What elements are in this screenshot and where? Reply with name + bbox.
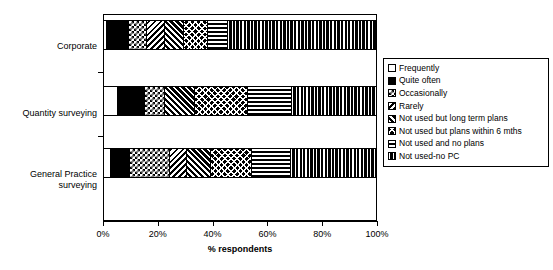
x-axis-tick <box>103 221 104 226</box>
bar-segment <box>184 20 209 50</box>
legend-item-label: Rarely <box>399 102 424 111</box>
bar-segment <box>211 148 252 178</box>
x-axis-tick-label: 0% <box>83 229 123 239</box>
bar-quantity-surveying <box>103 86 377 116</box>
bar-segment <box>147 20 165 50</box>
x-axis-tick <box>322 221 323 226</box>
swatch-chevron-icon <box>388 115 396 123</box>
bar-segment <box>129 20 147 50</box>
bar-segment <box>291 148 377 178</box>
legend-item[interactable]: Frequently <box>388 62 544 75</box>
bar-segment <box>165 86 195 116</box>
legend-item-label: Not used-no PC <box>399 152 459 161</box>
bar-segment <box>165 20 184 50</box>
x-axis-tick <box>267 221 268 226</box>
bar-segment <box>111 148 130 178</box>
category-label-general-practice-surveying: General Practicesurveying <box>0 169 97 191</box>
swatch-cross-hatch-icon <box>388 127 396 135</box>
legend-item[interactable]: Not used-no PC <box>388 150 544 163</box>
x-axis-line <box>103 221 377 222</box>
x-axis-tick-label: 80% <box>302 229 342 239</box>
bar-segment <box>130 148 170 178</box>
bar-segment <box>170 148 186 178</box>
bar-segment <box>208 20 227 50</box>
bar-segment <box>195 86 248 116</box>
stacked-bar-chart: Corporate Quantity surveying General Pra… <box>0 0 553 270</box>
category-label-quantity-surveying: Quantity surveying <box>0 108 97 119</box>
swatch-diagonal-stripes-icon <box>388 102 396 110</box>
bar-segment <box>118 86 145 116</box>
legend-item-label: Not used but long term plans <box>399 114 508 123</box>
swatch-checkerboard-icon <box>388 89 396 97</box>
legend-item[interactable]: Not used and no plans <box>388 138 544 151</box>
bar-segment <box>228 20 377 50</box>
x-axis-tick <box>213 221 214 226</box>
x-axis-tick-label: 20% <box>138 229 178 239</box>
x-axis-tick-label: 60% <box>247 229 287 239</box>
swatch-solid-black-icon <box>388 77 396 85</box>
legend-item[interactable]: Not used but long term plans <box>388 112 544 125</box>
legend-item[interactable]: Quite often <box>388 75 544 88</box>
x-axis-tick-label: 40% <box>193 229 233 239</box>
legend-item[interactable]: Rarely <box>388 100 544 113</box>
y-axis-tick <box>98 136 103 137</box>
legend-item-label: Not used but plans within 6 mths <box>399 127 522 136</box>
legend-item[interactable]: Occasionally <box>388 87 544 100</box>
x-axis-title: % respondents <box>103 244 377 254</box>
y-axis-tick <box>98 72 103 73</box>
bar-segment <box>252 148 290 178</box>
bar-segment <box>187 148 212 178</box>
legend-item-label: Quite often <box>399 76 441 85</box>
bar-corporate <box>103 20 377 50</box>
bar-segment <box>292 86 377 116</box>
bar-segment <box>248 86 292 116</box>
legend-item[interactable]: Not used but plans within 6 mths <box>388 125 544 138</box>
swatch-horizontal-lines-icon <box>388 140 396 148</box>
legend-item-label: Not used and no plans <box>399 139 484 148</box>
bar-segment <box>107 20 129 50</box>
chart-legend: FrequentlyQuite oftenOccasionallyRarelyN… <box>383 58 549 167</box>
x-axis-tick <box>158 221 159 226</box>
bar-segment <box>103 148 111 178</box>
x-axis-tick <box>377 221 378 226</box>
category-label-corporate: Corporate <box>0 41 97 52</box>
swatch-vertical-lines-icon <box>388 152 396 160</box>
legend-item-label: Frequently <box>399 64 439 73</box>
x-axis-tick-label: 100% <box>357 229 397 239</box>
swatch-white-icon <box>388 64 396 72</box>
bar-segment <box>145 86 164 116</box>
legend-item-label: Occasionally <box>399 89 447 98</box>
bar-general-practice-surveying <box>103 148 377 178</box>
bar-segment <box>103 86 118 116</box>
